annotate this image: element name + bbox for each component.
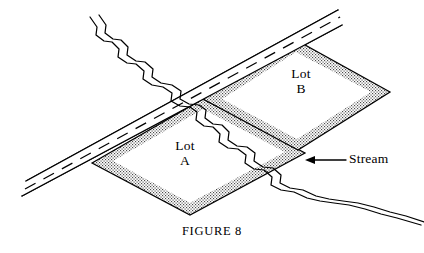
lot-survey-diagram (0, 0, 424, 253)
stream-label: Stream (349, 152, 388, 166)
lot-b-label: Lot B (278, 66, 324, 96)
figure-caption: FIGURE 8 (0, 224, 424, 239)
figure-container: Lot A Lot B Stream FIGURE 8 (0, 0, 424, 253)
lot-a-label: Lot A (162, 138, 208, 168)
lot-b-label-line2: B (278, 81, 324, 96)
lot-b-label-line1: Lot (278, 66, 324, 81)
lot-a-label-line2: A (162, 153, 208, 168)
lot-a-label-line1: Lot (162, 138, 208, 153)
